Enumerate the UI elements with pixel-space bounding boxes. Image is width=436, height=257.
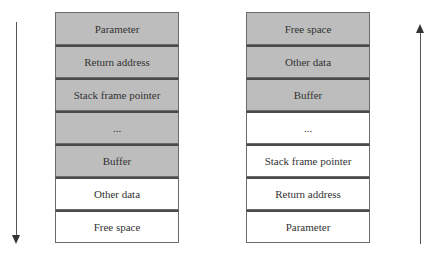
left-memory-stack: Parameter Return address Stack frame poi…: [55, 12, 179, 243]
left-cell-ellipsis: ...: [55, 111, 179, 144]
right-cell-buffer: Buffer: [246, 78, 370, 111]
left-cell-parameter: Parameter: [55, 12, 179, 45]
arrow-down-icon: [12, 235, 20, 244]
arrow-up-icon: [416, 24, 424, 33]
right-cell-return-address: Return address: [246, 177, 370, 210]
left-direction-arrow: [16, 22, 17, 236]
left-cell-return-address: Return address: [55, 45, 179, 78]
left-cell-stack-frame-pointer: Stack frame pointer: [55, 78, 179, 111]
right-cell-parameter: Parameter: [246, 210, 370, 243]
right-memory-stack: Free space Other data Buffer ... Stack f…: [246, 12, 370, 243]
right-cell-other-data: Other data: [246, 45, 370, 78]
left-cell-buffer: Buffer: [55, 144, 179, 177]
right-cell-stack-frame-pointer: Stack frame pointer: [246, 144, 370, 177]
right-cell-ellipsis: ...: [246, 111, 370, 144]
right-cell-free-space: Free space: [246, 12, 370, 45]
left-cell-other-data: Other data: [55, 177, 179, 210]
left-cell-free-space: Free space: [55, 210, 179, 243]
right-direction-arrow: [420, 32, 421, 244]
